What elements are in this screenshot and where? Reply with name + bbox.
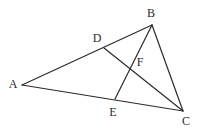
vertex-label-c: C: [182, 115, 190, 127]
vertex-label-a: A: [9, 78, 18, 90]
geometry-canvas: [0, 0, 200, 132]
vertex-label-b: B: [147, 7, 155, 19]
vertex-label-e: E: [109, 106, 116, 118]
geometry-figure: ABCDEF: [0, 0, 200, 132]
side-ab: [22, 25, 152, 85]
vertex-label-f: F: [137, 56, 144, 68]
cevian-eb: [115, 25, 152, 99]
segment-layer: [22, 25, 183, 111]
side-ac: [22, 85, 183, 111]
vertex-label-d: D: [93, 32, 102, 44]
